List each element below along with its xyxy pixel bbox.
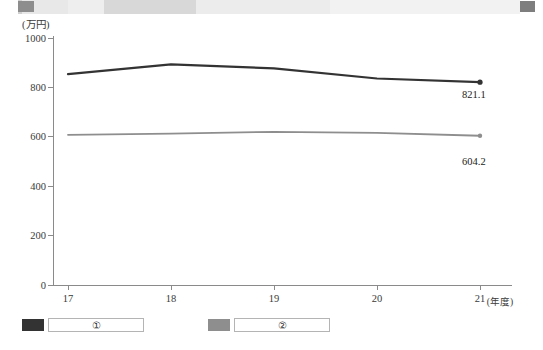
y-tick-600 [48,136,53,137]
chart-page: (万円) 1000 800 600 400 200 0 [0,0,543,350]
x-tick-21 [480,285,481,290]
legend-item-2[interactable]: ② [208,318,330,332]
series-1-endpoint-marker [477,80,482,85]
y-label-0: 0 [2,280,46,291]
legend-label-1: ① [48,318,144,332]
legend-label-2: ② [234,318,330,332]
y-tick-800 [48,87,53,88]
x-axis-line [53,285,512,286]
x-label-19: 19 [269,293,280,304]
series-1-line [68,64,480,82]
y-axis-line [53,36,54,286]
top-band-left-marker [18,1,34,12]
y-label-200: 200 [2,230,46,241]
chart-legend: ① ② [0,318,543,338]
x-label-21: 21 [475,293,486,304]
y-tick-0 [48,285,53,286]
x-label-17: 17 [63,293,74,304]
x-tick-20 [377,285,378,290]
x-tick-18 [171,285,172,290]
legend-item-1[interactable]: ① [22,318,144,332]
y-tick-200 [48,235,53,236]
top-band-right-marker [520,1,535,12]
y-label-800: 800 [2,82,46,93]
series-2-value-label: 604.2 [462,156,486,167]
y-tick-400 [48,186,53,187]
x-label-18: 18 [166,293,177,304]
series-2-endpoint-marker [478,134,482,138]
y-label-1000: 1000 [2,33,46,44]
y-tick-1000 [48,38,53,39]
y-label-400: 400 [2,181,46,192]
series-1-value-label: 821.1 [462,89,486,100]
y-axis-unit-label: (万円) [22,16,50,31]
series-1-swatch [22,319,44,331]
x-tick-19 [274,285,275,290]
y-label-600: 600 [2,131,46,142]
x-label-20: 20 [372,293,383,304]
series-2-swatch [208,319,230,331]
series-2-line [68,132,480,136]
x-axis-unit-label: (年度) [487,294,513,308]
page-top-band [0,0,543,14]
x-tick-17 [68,285,69,290]
